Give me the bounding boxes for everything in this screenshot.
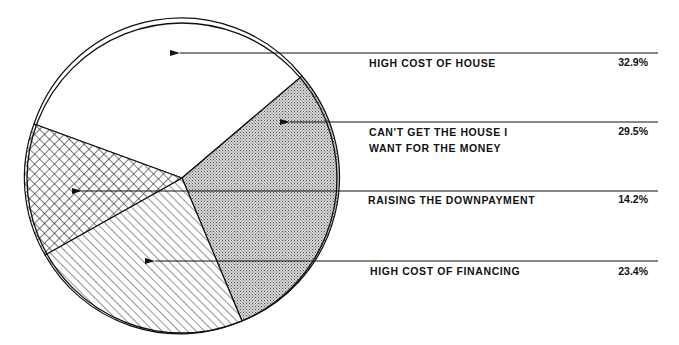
label-cant-get-house: CAN'T GET THE HOUSE I WANT FOR THE MONEY [369,124,508,156]
label-raising-downpayment: RAISING THE DOWNPAYMENT [368,192,535,208]
label-high-cost-of-financing: HIGH COST OF FINANCING [370,263,520,279]
label-high-cost-of-house: HIGH COST OF HOUSE [369,55,496,71]
pct-high-cost-of-house: 32.9% [588,56,648,68]
pct-raising-downpayment: 14.2% [588,193,648,205]
pct-cant-get-house: 29.5% [588,125,648,137]
pie-chart [0,0,679,345]
pct-high-cost-of-financing: 23.4% [588,265,648,277]
